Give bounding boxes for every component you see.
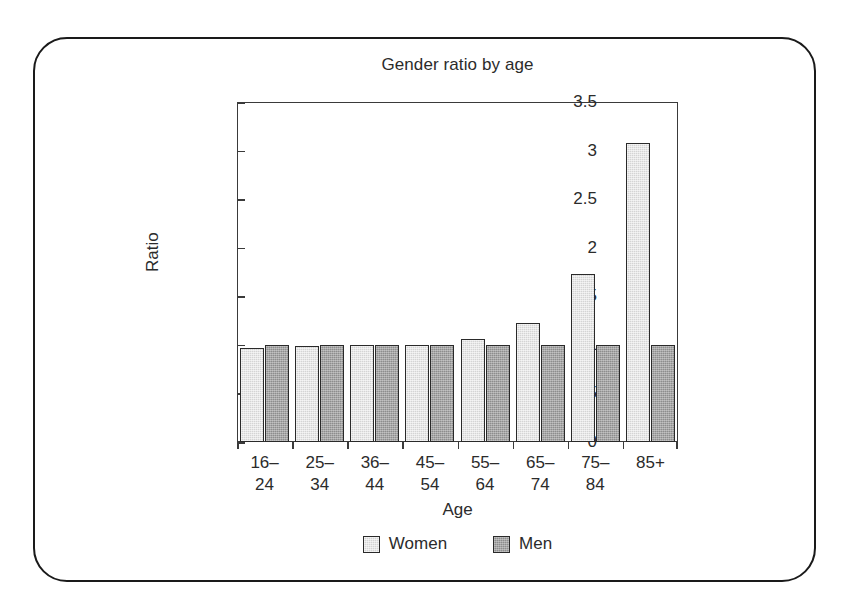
x-axis-tick <box>676 442 678 449</box>
legend-swatch-men <box>493 536 510 553</box>
x-axis-tick <box>347 442 349 449</box>
y-axis-tick-label: 3.5 <box>527 92 597 112</box>
y-axis-title: Ratio <box>143 232 163 272</box>
x-axis-tick-label: 65– 74 <box>526 452 554 496</box>
bar-women-3 <box>405 345 429 442</box>
chart-legend: WomenMen <box>237 534 678 554</box>
bar-men-0 <box>265 345 289 442</box>
y-axis-tick-label: 2 <box>527 238 597 258</box>
x-axis-tick-label: 75– 84 <box>581 452 609 496</box>
y-axis-tick <box>237 248 245 250</box>
x-axis-tick <box>513 442 515 449</box>
x-axis-tick-label: 55– 64 <box>471 452 499 496</box>
x-axis-tick <box>292 442 294 449</box>
bar-women-1 <box>295 346 319 442</box>
bar-men-1 <box>320 345 344 442</box>
bar-men-3 <box>430 345 454 442</box>
bar-men-2 <box>375 345 399 442</box>
bar-men-7 <box>651 345 675 442</box>
legend-label-men: Men <box>519 534 552 554</box>
y-axis-tick <box>237 199 245 201</box>
legend-entry-men: Men <box>493 534 552 554</box>
bar-women-6 <box>571 274 595 442</box>
legend-entry-women: Women <box>363 534 447 554</box>
x-axis-tick <box>623 442 625 449</box>
bar-men-4 <box>486 345 510 442</box>
bar-women-4 <box>461 339 485 442</box>
bar-men-5 <box>541 345 565 442</box>
y-axis-tick <box>237 102 245 104</box>
x-axis-tick <box>402 442 404 449</box>
y-axis-tick <box>237 345 245 347</box>
x-axis-tick-label: 45– 54 <box>416 452 444 496</box>
bar-women-0 <box>240 348 264 442</box>
bar-women-7 <box>626 143 650 442</box>
x-axis-tick-label: 16– 24 <box>250 452 278 496</box>
legend-label-women: Women <box>389 534 447 554</box>
x-axis-tick <box>237 442 239 449</box>
x-axis-tick-label: 25– 34 <box>306 452 334 496</box>
y-axis-tick <box>237 151 245 153</box>
bar-women-2 <box>350 345 374 442</box>
bar-women-5 <box>516 323 540 442</box>
x-axis-tick-label: 85+ <box>636 452 665 474</box>
y-axis-tick-label: 2.5 <box>527 189 597 209</box>
bar-men-6 <box>596 345 620 442</box>
x-axis-title: Age <box>237 500 678 520</box>
x-axis-tick <box>458 442 460 449</box>
x-axis-tick <box>568 442 570 449</box>
y-axis-tick <box>237 296 245 298</box>
y-axis-tick-label: 3 <box>527 141 597 161</box>
legend-swatch-women <box>363 536 380 553</box>
x-axis-tick-label: 36– 44 <box>361 452 389 496</box>
chart-title: Gender ratio by age <box>237 55 678 75</box>
